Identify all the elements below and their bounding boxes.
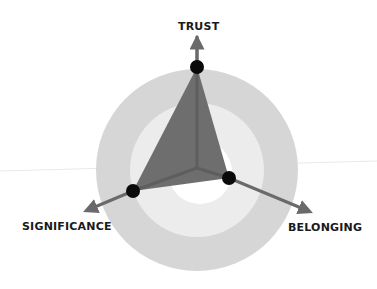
significance-label: SIGNIFICANCE <box>22 221 112 233</box>
trust-point <box>190 60 204 74</box>
significance-point <box>126 184 140 198</box>
belonging-point <box>222 171 236 185</box>
diagram-canvas <box>0 0 377 289</box>
belonging-label: BELONGING <box>288 222 362 234</box>
radar-diagram: TRUST SIGNIFICANCE BELONGING <box>0 0 377 289</box>
trust-label: TRUST <box>178 21 219 33</box>
